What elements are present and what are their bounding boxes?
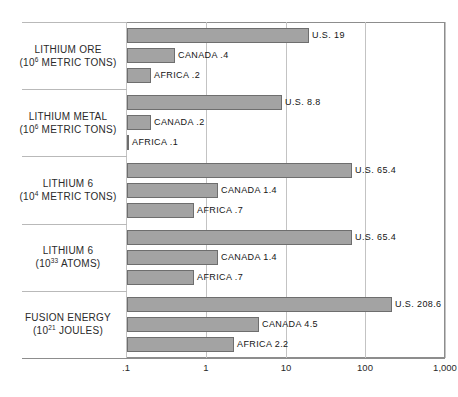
bar-value-label: U.S. 208.6 [395, 297, 442, 312]
x-tick-label: .1 [122, 362, 130, 373]
category-label-units: (1033 ATOMS) [14, 257, 122, 270]
bar-canada [127, 48, 175, 63]
category-separator [22, 224, 127, 225]
category-separator [22, 291, 127, 292]
category-label-units: (104 METRIC TONS) [14, 190, 122, 203]
bar-canada [127, 317, 259, 332]
bar-value-label: AFRICA .7 [197, 203, 243, 218]
bar-canada [127, 183, 218, 198]
bar-value-label: CANADA 1.4 [221, 250, 277, 265]
bar-us [127, 95, 282, 110]
category-label-exponent: 6 [35, 123, 39, 130]
bar-africa [127, 135, 129, 150]
category-label-line1: LITHIUM 6 [43, 245, 94, 256]
bar-value-label: CANADA .2 [154, 115, 205, 130]
category-separator [22, 22, 127, 23]
bar-canada [127, 115, 151, 130]
x-tick-label: 1,000 [433, 362, 457, 373]
bar-value-label: U.S. 65.4 [355, 230, 396, 245]
category-label-line1: FUSION ENERGY [25, 312, 111, 323]
bar-africa [127, 68, 151, 83]
bar-us [127, 28, 309, 43]
category-label: LITHIUM 6(104 METRIC TONS) [14, 177, 122, 203]
category-label: FUSION ENERGY(1021 JOULES) [14, 311, 122, 337]
bar-africa [127, 270, 194, 285]
category-label-exponent: 21 [48, 324, 56, 331]
category-label: LITHIUM 6(1033 ATOMS) [14, 244, 122, 270]
bar-value-label: AFRICA 2.2 [237, 337, 289, 352]
category-label-line1: LITHIUM ORE [34, 44, 101, 55]
category-label: LITHIUM METAL(106 METRIC TONS) [14, 110, 122, 136]
bar-us [127, 163, 352, 178]
category-label-units: (106 METRIC TONS) [14, 123, 122, 136]
category-label-exponent: 33 [51, 257, 59, 264]
x-axis-line [22, 358, 445, 359]
x-tick-label: 10 [281, 362, 292, 373]
category-label-line1: LITHIUM 6 [43, 178, 94, 189]
bar-value-label: AFRICA .7 [197, 270, 243, 285]
category-label-exponent: 6 [35, 56, 39, 63]
bar-value-label: CANADA 1.4 [221, 183, 277, 198]
bar-value-label: AFRICA .2 [154, 68, 200, 83]
lithium-resources-bar-chart: .11101001,000LITHIUM ORE(106 METRIC TONS… [0, 0, 458, 397]
bar-value-label: AFRICA .1 [132, 135, 178, 150]
gridline-1000 [445, 22, 446, 358]
category-separator [22, 156, 127, 157]
bar-us [127, 230, 352, 245]
category-label-line1: LITHIUM METAL [29, 111, 108, 122]
bar-canada [127, 250, 218, 265]
bar-value-label: U.S. 19 [312, 28, 345, 43]
bar-value-label: CANADA 4.5 [262, 317, 318, 332]
x-tick-label: 1 [203, 362, 208, 373]
bar-value-label: CANADA .4 [178, 48, 229, 63]
bar-us [127, 297, 392, 312]
bar-africa [127, 203, 194, 218]
category-separator [22, 89, 127, 90]
category-label-exponent: 4 [35, 190, 39, 197]
bar-value-label: U.S. 65.4 [355, 163, 396, 178]
bar-africa [127, 337, 234, 352]
bar-value-label: U.S. 8.8 [285, 95, 321, 110]
x-tick-label: 100 [357, 362, 373, 373]
category-label: LITHIUM ORE(106 METRIC TONS) [14, 43, 122, 69]
category-label-units: (106 METRIC TONS) [14, 56, 122, 69]
category-label-units: (1021 JOULES) [14, 324, 122, 337]
